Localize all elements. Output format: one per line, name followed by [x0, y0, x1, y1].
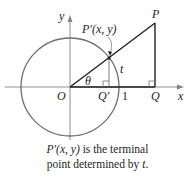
unit-one-label: 1 [122, 89, 128, 103]
caption-point: P′(x, y) [47, 143, 80, 155]
angle-theta-label: θ [85, 74, 91, 88]
caption-text-2: point determined by [47, 158, 143, 170]
point-p-prime-label: P′(x, y) [81, 22, 117, 36]
caption-line-1: P′(x, y) is the terminal [0, 142, 195, 157]
right-angle-q-prime-icon [103, 81, 109, 87]
y-axis-arrow-icon [68, 15, 73, 22]
right-angle-q-icon [149, 81, 155, 87]
y-axis-label: y [58, 9, 65, 23]
origin-label: O [57, 89, 66, 103]
point-p-prime-dot [107, 56, 110, 59]
caption-period: . [145, 158, 148, 170]
figure-caption: P′(x, y) is the terminal point determine… [0, 142, 195, 172]
point-q-prime-label: Q′ [98, 89, 110, 103]
caption-line-2: point determined by t. [0, 157, 195, 172]
x-axis-label: x [177, 89, 184, 103]
caption-text-1: is the terminal [80, 143, 149, 155]
point-p-label: P [151, 7, 160, 21]
point-q-label: Q [151, 89, 160, 103]
arc-t-label: t [120, 62, 124, 76]
